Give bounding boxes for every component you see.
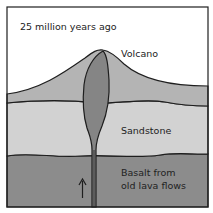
volcano-label: Volcano (121, 48, 158, 59)
basalt-label-line1: Basalt from (121, 167, 176, 178)
basalt-label-line2: old lava flows (121, 180, 186, 191)
sandstone-label: Sandstone (121, 125, 171, 136)
volcano-cross-section-diagram: 25 million years ago Volcano Sandstone B… (0, 0, 213, 213)
diagram-title: 25 million years ago (20, 21, 117, 32)
